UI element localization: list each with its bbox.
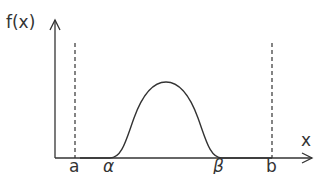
density-curve [80,82,272,158]
marker-alpha: α [103,156,114,174]
density-diagram: f(x) x a α β b [0,0,321,174]
y-axis-label: f(x) [6,12,35,32]
marker-b: b [266,156,277,174]
marker-a: a [69,156,79,174]
marker-beta: β [212,156,224,174]
x-axis-label: x [301,130,311,150]
